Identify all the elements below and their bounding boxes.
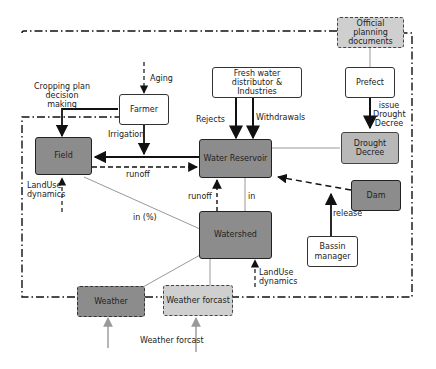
weather-node[interactable]: Weather xyxy=(77,286,145,317)
release-label: release xyxy=(333,209,362,218)
official-planning-documents-node[interactable]: Official planning documents xyxy=(337,17,404,48)
issue-drought-decree-label: issue Drought Decree xyxy=(373,101,405,129)
withdrawals-label: Withdrawals xyxy=(256,113,305,122)
aging-label: Aging xyxy=(150,74,173,83)
field-node[interactable]: Field xyxy=(35,137,92,175)
drought-decree-node[interactable]: Drought Decree xyxy=(341,132,399,164)
weather-forcast-node[interactable]: Weather forcast xyxy=(163,285,233,316)
cropping-plan-label: Cropping plan decision making xyxy=(30,82,94,110)
rejects-label: Rejects xyxy=(196,115,225,124)
farmer-node[interactable]: Farmer xyxy=(119,94,169,125)
weather-forcast-input-label: Weather forcast xyxy=(140,336,204,345)
watershed-node[interactable]: Watershed xyxy=(199,211,272,259)
bassin-manager-node[interactable]: Bassin manager xyxy=(307,236,358,267)
irrigation-label: Irrigation xyxy=(108,130,144,139)
landuse-watershed-label: LandUse dynamics xyxy=(259,268,297,286)
in-label: in xyxy=(248,192,255,201)
runoff-field-label: runoff xyxy=(126,170,150,179)
runoff-watershed-label: runoff xyxy=(188,192,212,201)
fresh-water-distributor-node[interactable]: Fresh water distributor & Industries xyxy=(212,67,302,98)
prefect-node[interactable]: Prefect xyxy=(345,67,395,98)
dam-node[interactable]: Dam xyxy=(351,180,401,211)
in-percent-label: in (%) xyxy=(133,213,157,222)
landuse-field-label: LandUse dynamics xyxy=(27,181,61,199)
water-reservoir-node[interactable]: Water Reservoir xyxy=(199,139,272,178)
